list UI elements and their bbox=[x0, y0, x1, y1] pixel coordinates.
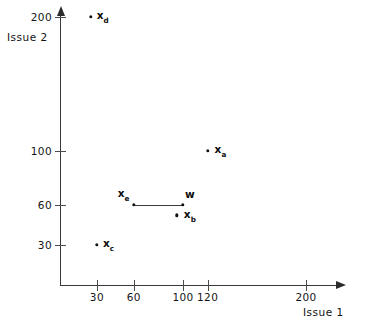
y-axis-tick-label: 30 bbox=[12, 239, 52, 251]
scatter-plot-figure: Issue 2 Issue 1 30601002003060100120200x… bbox=[0, 0, 369, 323]
data-point-xc bbox=[95, 243, 98, 246]
x-axis-tick bbox=[97, 280, 98, 291]
y-axis-tick bbox=[55, 151, 66, 152]
data-point-label: xc bbox=[103, 237, 114, 252]
y-axis-tick-label: 200 bbox=[12, 11, 52, 23]
x-axis-title: Issue 1 bbox=[303, 306, 344, 318]
data-point-label: xd bbox=[97, 9, 109, 24]
x-axis-arrow-icon bbox=[336, 281, 346, 289]
y-axis-tick bbox=[55, 245, 66, 246]
data-point-w bbox=[181, 203, 184, 206]
y-axis-tick-label: 100 bbox=[12, 145, 52, 157]
data-point-label: xb bbox=[184, 209, 196, 224]
x-axis-tick bbox=[134, 280, 135, 291]
x-axis-tick bbox=[208, 280, 209, 291]
x-axis-tick-label: 60 bbox=[127, 291, 141, 303]
x-axis-tick-label: 30 bbox=[90, 291, 104, 303]
y-axis-tick-label: 60 bbox=[12, 199, 52, 211]
data-point-xd bbox=[89, 15, 92, 18]
y-axis-arrow-icon bbox=[57, 6, 65, 16]
y-axis-tick bbox=[55, 17, 66, 18]
x-axis-tick-label: 120 bbox=[197, 291, 218, 303]
y-axis-tick bbox=[55, 205, 66, 206]
y-axis-title: Issue 2 bbox=[7, 31, 48, 43]
data-point-xb bbox=[175, 214, 178, 217]
x-axis-tick-label: 100 bbox=[172, 291, 193, 303]
data-point-xa bbox=[206, 149, 209, 152]
data-point-label: xa bbox=[215, 143, 227, 158]
x-axis-tick bbox=[183, 280, 184, 291]
x-axis-tick-label: 200 bbox=[295, 291, 316, 303]
connecting-segment bbox=[134, 205, 183, 206]
data-point-label: w bbox=[185, 188, 195, 200]
x-axis-line bbox=[60, 285, 338, 286]
x-axis-tick bbox=[306, 280, 307, 291]
data-point-label: xe bbox=[118, 187, 130, 202]
